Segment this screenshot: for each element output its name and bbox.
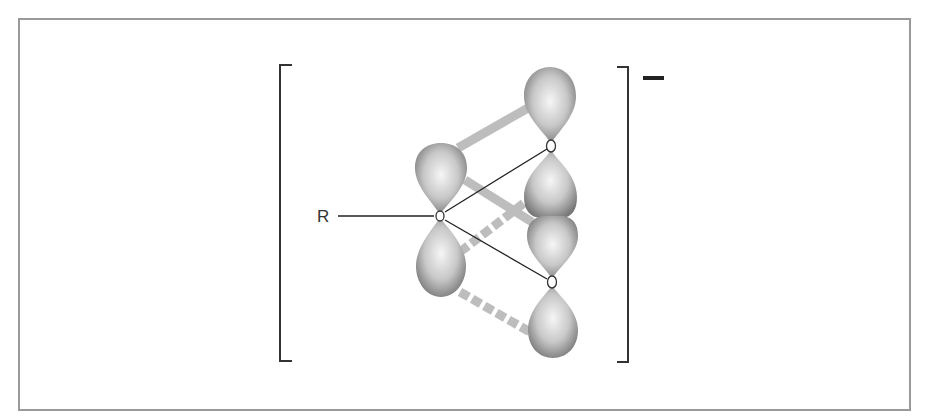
overlap-dashed-middle xyxy=(460,200,528,252)
oxygen2-lower-lobe xyxy=(528,286,578,358)
right-bracket xyxy=(617,67,628,362)
overlap-dashed-lower xyxy=(460,292,530,332)
oxygen1-lower-lobe xyxy=(524,150,577,218)
oxygen1-upper-lobe xyxy=(524,67,576,143)
carbon-lower-lobe xyxy=(416,218,466,297)
left-bracket xyxy=(280,65,292,361)
negative-charge-sign xyxy=(643,76,664,80)
oxygen2-upper-lobe xyxy=(527,216,578,279)
overlap-solid-middle xyxy=(465,180,532,222)
carbon-nucleus xyxy=(436,211,444,221)
oxygen1-nucleus xyxy=(547,140,556,152)
substituent-r-label: R xyxy=(317,207,329,226)
orbital-overlap-lines xyxy=(458,104,535,332)
oxygen2-nucleus xyxy=(548,276,557,288)
carboxylate-orbital-diagram: R xyxy=(0,0,927,418)
overlap-solid-upper xyxy=(458,104,535,148)
